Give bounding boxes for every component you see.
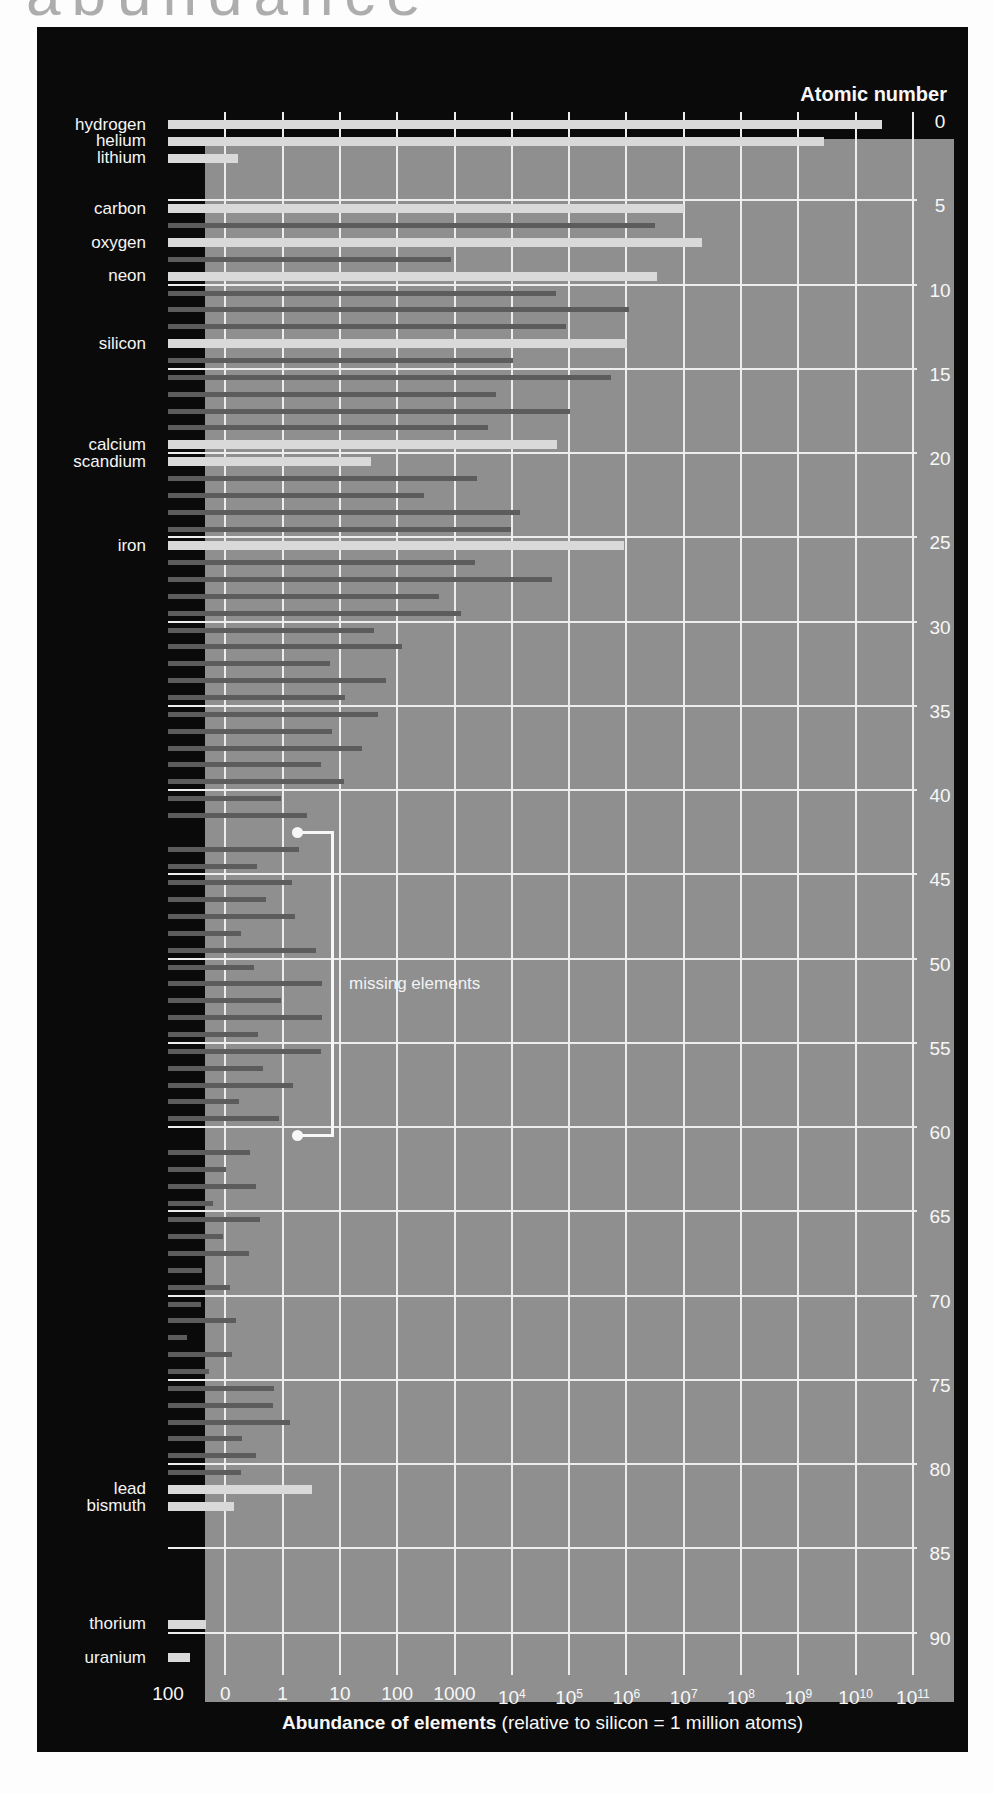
abundance-bar <box>168 1201 213 1206</box>
callout-line-vert <box>331 831 334 1137</box>
abundance-bar <box>168 1369 209 1374</box>
abundance-bar <box>168 577 552 582</box>
abundance-bar <box>168 594 439 599</box>
abundance-tick: 1011 <box>896 1684 930 1708</box>
atomic-number-tick: 40 <box>920 785 960 807</box>
abundance-tick-exponent: 11 <box>917 1687 929 1701</box>
abundance-tick: 10 <box>329 1684 350 1704</box>
abundance-bar <box>168 1184 256 1189</box>
abundance-bar <box>168 1083 293 1088</box>
atomic-number-tick: 55 <box>920 1038 960 1060</box>
atomic-gridline <box>168 789 917 791</box>
abundance-bar <box>168 948 316 953</box>
abundance-tick-exponent: 5 <box>576 1687 583 1701</box>
abundance-bar <box>168 272 657 281</box>
decade-gridline <box>855 112 857 1675</box>
abundance-tick-exponent: 6 <box>634 1687 641 1701</box>
atomic-number-tick: 30 <box>920 617 960 639</box>
abundance-bar <box>168 931 241 936</box>
abundance-bar <box>168 392 496 397</box>
abundance-bar <box>168 1066 263 1071</box>
abundance-bar <box>168 813 307 818</box>
abundance-bar <box>168 120 882 129</box>
abundance-tick: 100 <box>152 1684 184 1704</box>
abundance-bar <box>168 695 345 700</box>
abundance-bar <box>168 981 322 986</box>
element-label: bismuth <box>20 1497 146 1515</box>
abundance-bar <box>168 440 557 449</box>
atomic-gridline <box>168 536 917 538</box>
x-axis-title-rest: (relative to silicon = 1 million atoms) <box>496 1712 803 1733</box>
abundance-bar <box>168 1302 201 1307</box>
atomic-gridline <box>168 452 917 454</box>
abundance-tick: 100 <box>381 1684 413 1704</box>
element-label: silicon <box>20 335 146 353</box>
plot-area <box>205 139 954 1702</box>
atomic-gridline <box>168 284 917 286</box>
abundance-bar <box>168 1150 250 1155</box>
atomic-number-tick: 70 <box>920 1291 960 1313</box>
abundance-tick: 105 <box>555 1684 583 1708</box>
element-label: scandium <box>20 453 146 471</box>
decade-gridline <box>912 112 914 1675</box>
abundance-bar <box>168 1251 249 1256</box>
abundance-bar <box>168 1403 273 1408</box>
atomic-gridline <box>168 1463 917 1465</box>
abundance-bar <box>168 1485 312 1494</box>
abundance-tick: 1 <box>277 1684 288 1704</box>
element-label: oxygen <box>20 234 146 252</box>
abundance-bar <box>168 425 488 430</box>
abundance-bar <box>168 1502 234 1511</box>
abundance-bar <box>168 1386 274 1391</box>
atomic-gridline <box>168 1210 917 1212</box>
abundance-bar <box>168 1420 290 1425</box>
atomic-number-tick: 45 <box>920 869 960 891</box>
abundance-bar <box>168 897 266 902</box>
abundance-bar <box>168 1116 279 1121</box>
abundance-bar <box>168 154 238 163</box>
abundance-bar <box>168 238 702 247</box>
atomic-gridline <box>168 621 917 623</box>
abundance-bar <box>168 628 374 633</box>
abundance-bar <box>168 1470 241 1475</box>
atomic-gridline <box>168 705 917 707</box>
book-page: abundance Atomic number hydrogenheliumli… <box>0 0 994 1794</box>
abundance-tick: 109 <box>784 1684 812 1708</box>
abundance-bar <box>168 457 371 466</box>
abundance-tick-exponent: 8 <box>748 1687 755 1701</box>
atomic-gridline <box>168 873 917 875</box>
abundance-bar <box>168 1335 187 1340</box>
abundance-tick-exponent: 4 <box>519 1687 526 1701</box>
abundance-bar <box>168 204 684 213</box>
abundance-bar <box>168 1653 190 1662</box>
callout-dot-technetium <box>292 827 303 838</box>
abundance-bar <box>168 510 520 515</box>
abundance-bar <box>168 712 378 717</box>
abundance-bar <box>168 307 629 312</box>
abundance-bar <box>168 965 254 970</box>
abundance-bar <box>168 1620 206 1629</box>
abundance-bar <box>168 291 556 296</box>
abundance-bar <box>168 1049 321 1054</box>
abundance-bar <box>168 661 330 666</box>
abundance-tick-exponent: 10 <box>859 1687 872 1701</box>
abundance-bar <box>168 678 386 683</box>
atomic-number-tick: 25 <box>920 532 960 554</box>
abundance-tick: 1000 <box>433 1684 475 1704</box>
atomic-number-tick: 20 <box>920 448 960 470</box>
abundance-bar <box>168 1453 256 1458</box>
abundance-bar <box>168 137 824 146</box>
page-title-abundance: abundance <box>26 0 432 29</box>
element-label: uranium <box>20 1649 146 1667</box>
abundance-tick: 108 <box>727 1684 755 1708</box>
abundance-bar <box>168 762 321 767</box>
atomic-gridline <box>168 368 917 370</box>
atomic-number-tick: 35 <box>920 701 960 723</box>
atomic-number-tick: 85 <box>920 1543 960 1565</box>
callout-dot-promethium <box>292 1130 303 1141</box>
abundance-bar <box>168 541 624 550</box>
abundance-bar <box>168 324 566 329</box>
atomic-gridline <box>168 1295 917 1297</box>
abundance-bar <box>168 1268 202 1273</box>
abundance-bar <box>168 1285 230 1290</box>
